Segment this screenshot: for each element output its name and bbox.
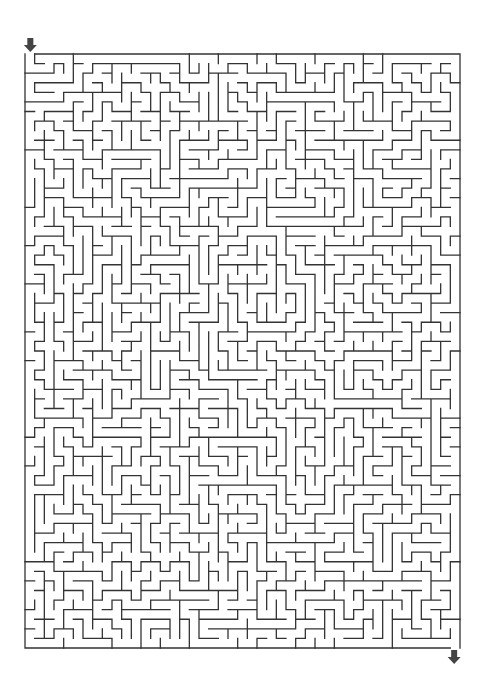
maze-inner-walls — [25, 54, 460, 648]
entrance-arrow-down-icon — [24, 38, 37, 52]
exit-arrow-down-icon — [448, 650, 461, 664]
maze-walls — [25, 54, 460, 648]
maze-board — [0, 0, 489, 691]
